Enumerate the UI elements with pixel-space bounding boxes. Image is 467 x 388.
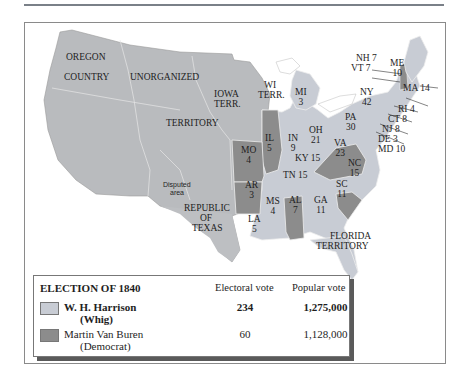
label-florida: FLORIDA <box>330 231 371 241</box>
label-unorganized: UNORGANIZED <box>130 72 199 82</box>
label-wi-terr: TERR. <box>258 90 285 100</box>
label-republic: REPUBLIC <box>184 203 230 213</box>
state-label-ga: GA11 <box>314 195 328 215</box>
label-of: OF <box>200 213 212 223</box>
state-label-vt: VT 7 <box>351 63 371 73</box>
state-me <box>404 36 428 82</box>
state-label-ms: MS4 <box>266 196 280 216</box>
popular-vote-value: 1,128,000 <box>298 328 353 340</box>
label-area: area <box>170 189 184 197</box>
candidate-name: Martin Van Buren (Democrat) <box>64 328 143 352</box>
label-iowa: IOWA <box>214 89 239 99</box>
state-label-mi: MI3 <box>295 87 307 107</box>
state-label-al: AL7 <box>289 195 302 215</box>
label-country: COUNTRY <box>64 72 109 82</box>
legend-box: ELECTION OF 1840 Electoral vote Popular … <box>33 275 350 357</box>
state-label-pa: PA30 <box>345 112 356 132</box>
state-label-va: VA23 <box>334 138 347 158</box>
header-popular-vote: Popular vote <box>292 282 345 293</box>
state-label-ky: KY 15 <box>295 153 320 163</box>
whig-swatch <box>40 302 59 315</box>
state-label-la: LA5 <box>248 214 261 234</box>
header-electoral-vote: Electoral vote <box>215 282 274 293</box>
popular-vote-value: 1,275,000 <box>298 301 353 313</box>
state-label-ma: MA 14 <box>403 83 430 93</box>
state-label-in: IN9 <box>288 133 298 153</box>
label-disputed: Disputed <box>163 181 191 189</box>
state-label-de: DE 3 <box>378 134 398 144</box>
candidate-name: W. H. Harrison (Whig) <box>64 301 136 325</box>
label-territory: TERRITORY <box>166 118 219 128</box>
state-label-nh: NH 7 <box>356 53 377 63</box>
label-wi: WI <box>264 80 276 90</box>
legend-title: ELECTION OF 1840 <box>40 282 140 294</box>
state-label-nc: NC15 <box>348 158 361 178</box>
state-label-ar: AR3 <box>245 180 258 200</box>
state-label-ri: RI 4 <box>398 104 415 114</box>
label-florida-territory: TERRITORY <box>316 241 369 251</box>
label-iowa-terr: TERR. <box>214 99 241 109</box>
state-label-sc: SC11 <box>336 179 348 199</box>
democrat-swatch <box>40 329 59 342</box>
state-label-md: MD 10 <box>378 144 405 154</box>
state-label-nj: NJ 8 <box>382 124 400 134</box>
state-label-il: IL5 <box>265 133 274 153</box>
state-label-oh: OH21 <box>309 125 323 145</box>
label-oregon: OREGON <box>66 52 106 62</box>
state-label-ny: NY42 <box>360 87 374 107</box>
electoral-vote-value: 234 <box>230 301 260 313</box>
state-label-tn: TN 15 <box>283 170 308 180</box>
label-texas: TEXAS <box>192 223 223 233</box>
state-label-me: ME10 <box>390 58 404 78</box>
electoral-vote-value: 60 <box>230 328 260 340</box>
state-label-mo: MO4 <box>241 145 256 165</box>
state-label-ct: CT 8 <box>388 114 407 124</box>
